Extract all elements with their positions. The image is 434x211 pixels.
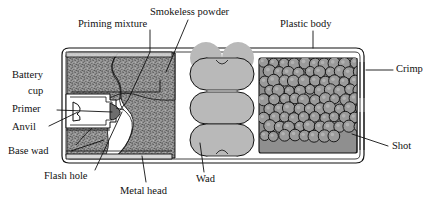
- label-wad: Wad: [196, 173, 216, 184]
- shot-pellets: [258, 57, 376, 143]
- label-battery-cup-line1: Battery: [12, 69, 44, 80]
- label-crimp: Crimp: [396, 63, 423, 74]
- label-plastic-body: Plastic body: [280, 18, 332, 29]
- wad-segment: [190, 42, 254, 90]
- label-shot: Shot: [392, 140, 411, 151]
- shotshell-cutaway-diagram: Priming mixture Smokeless powder Plastic…: [0, 0, 434, 211]
- crimp-detail: [357, 58, 364, 153]
- label-flash-hole: Flash hole: [44, 170, 88, 181]
- wad-segment: [190, 124, 254, 156]
- diagram-canvas: Priming mixture Smokeless powder Plastic…: [0, 0, 434, 211]
- wad-segment: [190, 92, 254, 124]
- label-smokeless-powder: Smokeless powder: [150, 6, 230, 17]
- shot-charge-region: [258, 57, 376, 153]
- label-priming-mixture: Priming mixture: [78, 18, 147, 29]
- label-battery-cup-line2: cup: [28, 85, 43, 96]
- label-metal-head: Metal head: [120, 185, 168, 196]
- wad-column: [190, 42, 254, 156]
- label-primer: Primer: [12, 103, 41, 114]
- label-base-wad: Base wad: [8, 145, 49, 156]
- label-anvil: Anvil: [12, 121, 36, 132]
